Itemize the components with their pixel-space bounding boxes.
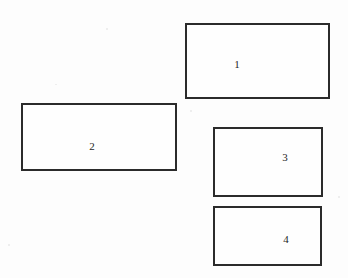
paper-speck [338,196,340,198]
rectangle-2[interactable] [21,103,177,171]
paper-speck [106,28,108,30]
paper-speck [190,110,192,112]
rectangle-4-label: 4 [283,234,289,245]
rectangle-3[interactable] [213,127,323,197]
rectangle-1-label: 1 [234,59,240,70]
rectangle-4[interactable] [213,206,322,266]
paper-speck [55,84,57,85]
rectangle-1[interactable] [185,23,330,99]
rectangle-3-label: 3 [282,152,288,163]
diagram-canvas: 1 2 3 4 [0,0,348,278]
paper-speck [8,244,10,246]
rectangle-2-label: 2 [89,141,95,152]
